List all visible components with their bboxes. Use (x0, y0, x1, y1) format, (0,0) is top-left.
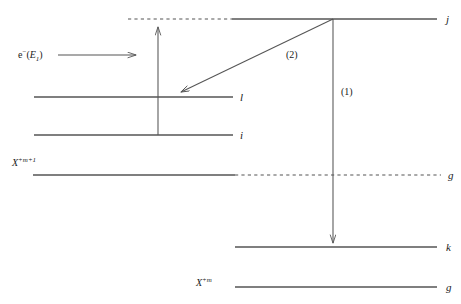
transition-2-arrow (181, 19, 333, 92)
level-lines-group (33, 19, 441, 287)
beam-paren-close: ) (39, 49, 42, 60)
transition-1-label: (1) (341, 87, 353, 97)
level-label-i: i (240, 130, 243, 141)
transition-2-label: (2) (286, 50, 298, 60)
level-label-k: k (446, 242, 451, 253)
level-label-g-lower: g (446, 282, 452, 293)
ion-label-lower: X+m (196, 278, 212, 288)
energy-level-diagram: j l i g k g X+m+1 X+m e−(E1) (2) (1) (0, 0, 461, 304)
level-label-l: l (240, 92, 243, 103)
electron-beam-label: e−(E1) (18, 50, 43, 60)
level-label-g-upper: g (448, 170, 454, 181)
level-label-j: j (446, 14, 449, 25)
ion-label-lower-superscript: +m (202, 276, 212, 284)
diagram-canvas (0, 0, 461, 304)
ion-label-upper-superscript: +m+1 (18, 156, 36, 164)
ion-label-upper: X+m+1 (12, 158, 36, 168)
